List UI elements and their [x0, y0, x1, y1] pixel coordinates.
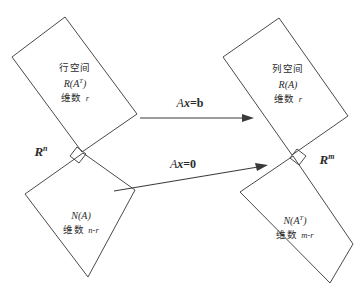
- codomain-space-label: Rm: [320, 152, 335, 168]
- null-space-math-name: N(A): [63, 209, 98, 222]
- column-space-cjk-name: 列空间: [272, 64, 304, 75]
- null-space-label: N(A) 维数n-r: [63, 209, 98, 236]
- left-null-space-label: N(AT) 维数m-r: [276, 214, 313, 241]
- figure-canvas: [0, 0, 361, 291]
- row-space-dimension: 维数r: [59, 92, 91, 103]
- column-space-dimension: 维数r: [272, 93, 304, 104]
- left-null-space-math-name: N(AT): [276, 214, 313, 227]
- null-space-dimension: 维数n-r: [63, 224, 98, 235]
- column-space-label: 列空间 R(A) 维数r: [272, 64, 304, 105]
- arrow-ax-equals-b: [140, 114, 254, 122]
- domain-space-label: Rn: [34, 144, 47, 160]
- row-space-math-name: R(AT): [59, 77, 91, 90]
- arrow-label-ax-equals-zero: Ax=0: [170, 158, 196, 172]
- arrow-label-ax-equals-b: Ax=b: [177, 97, 204, 111]
- left-null-space-dimension: 维数m-r: [276, 229, 313, 240]
- column-space-math-name: R(A): [272, 78, 304, 91]
- four-fundamental-subspaces-figure: 行空间 R(AT) 维数r 列空间 R(A) 维数r N(A) 维数n-r N(…: [0, 0, 361, 291]
- row-space-cjk-name: 行空间: [59, 63, 91, 74]
- row-space-label: 行空间 R(AT) 维数r: [59, 63, 91, 104]
